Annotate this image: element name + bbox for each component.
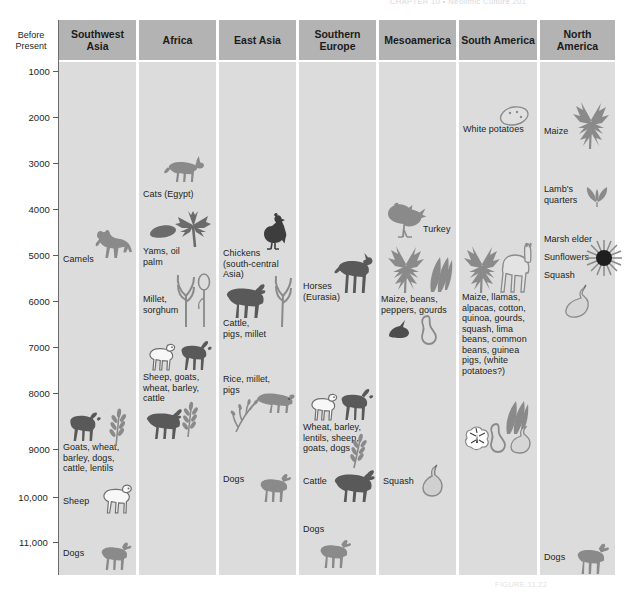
column-north-america[interactable]: North America Maize — [540, 20, 615, 575]
potato-icon — [497, 104, 531, 128]
turkey-icon — [385, 198, 431, 238]
beans-icon — [427, 254, 453, 294]
column-header: Africa — [139, 20, 216, 60]
camel-icon — [92, 226, 134, 262]
goat-icon — [177, 336, 213, 372]
llama-icon — [497, 242, 537, 294]
sheep-icon — [305, 390, 339, 422]
column-mesoamerica[interactable]: Mesoamerica Turkey Maize, beans, peppers… — [379, 20, 456, 575]
entry-label: Squash — [383, 476, 423, 487]
column-body: Horses (Eurasia) Wheat, barley, lentils,… — [299, 62, 376, 575]
y-axis-tick-label: 11,000 — [0, 537, 48, 548]
entry-label: Chickens (south-central Asia) — [223, 248, 279, 280]
column-east-asia[interactable]: East Asia Chickens (south-central Asia) … — [219, 20, 296, 575]
maize-icon — [385, 244, 427, 294]
cattle-icon — [329, 466, 379, 504]
entry-label: Cats (Egypt) — [143, 189, 209, 200]
goat-icon — [337, 384, 375, 422]
figure-caption: FIGURE 11.22 — [495, 580, 547, 589]
chicken-icon — [259, 212, 291, 250]
y-axis-title-line2: Present — [8, 41, 54, 52]
column-body: Camels Goats, wheat, barley, dogs, cattl… — [59, 62, 136, 575]
wheat-icon — [106, 407, 132, 447]
column-body: Cats (Egypt) Yams, oil palm — [139, 62, 216, 575]
column-header: North America — [540, 20, 615, 60]
entry-label: Dogs — [303, 524, 339, 535]
goat-icon — [65, 410, 101, 442]
y-axis-tick-label: 6000 — [2, 296, 50, 307]
y-axis-tick-label: 3000 — [2, 158, 50, 169]
column-body: Turkey Maize, beans, peppers, gourds — [379, 62, 456, 575]
millet-icon — [273, 274, 293, 328]
wheat-icon — [179, 400, 203, 438]
column-body: Maize — [540, 62, 615, 575]
column-header: East Asia — [219, 20, 296, 60]
y-axis-tick-label: 10,000 — [0, 492, 48, 503]
column-southwest-asia[interactable]: Southwest Asia Camels Goats, wheat, barl… — [59, 20, 136, 575]
cattle-icon — [221, 280, 273, 320]
dog-icon — [253, 470, 295, 504]
entry-label: Squash — [544, 270, 588, 281]
squash-icon — [419, 464, 449, 498]
chart-area: Southwest Asia Camels Goats, wheat, barl… — [59, 20, 615, 575]
column-header: Southwest Asia — [59, 20, 136, 60]
sunflower-icon — [584, 238, 624, 278]
gourd-icon — [487, 422, 509, 454]
column-africa[interactable]: Africa Cats (Egypt) Yams, oil palm — [139, 20, 216, 575]
column-body: Chickens (south-central Asia) Cattle, pi… — [219, 62, 296, 575]
entry-label: Yams, oil palm — [143, 246, 187, 267]
cat-icon — [161, 154, 205, 190]
y-axis-tick-label: 2000 — [2, 112, 50, 123]
column-southern-europe[interactable]: Southern Europe Horses (Eurasia) Wheat, … — [299, 20, 376, 575]
wheat-icon — [347, 432, 371, 470]
squash-icon — [562, 284, 596, 320]
millet-icon — [175, 272, 197, 328]
entry-label: Maize, llamas, alpacas, cotton, quinoa, … — [462, 292, 530, 376]
y-axis-tick-label: 4000 — [2, 204, 50, 215]
dog-icon — [313, 536, 357, 570]
column-header: Mesoamerica — [379, 20, 456, 60]
column-south-america[interactable]: South America White potatoes Maize, — [459, 20, 537, 575]
maize-icon — [570, 100, 612, 150]
entry-label: Cattle, pigs, millet — [223, 318, 271, 339]
column-body: White potatoes Maize, llamas, alpacas, c… — [459, 62, 537, 575]
entry-label: Lamb's quarters — [544, 184, 586, 205]
sorghum-icon — [195, 274, 213, 328]
gourd-icon — [417, 314, 441, 346]
rice-icon — [231, 398, 261, 434]
squash-icon — [507, 424, 535, 454]
entry-label: Maize, beans, peppers, gourds — [381, 294, 451, 315]
column-header: South America — [459, 20, 537, 60]
column-header: Southern Europe — [299, 20, 376, 60]
dog-icon — [570, 540, 614, 576]
y-axis-title-line1: Before — [8, 30, 54, 41]
pepper-icon — [387, 318, 413, 340]
y-axis-tick-label: 9000 — [2, 444, 50, 455]
sheep-icon — [96, 482, 134, 516]
y-axis-tick-label: 7000 — [2, 342, 50, 353]
horse-icon — [331, 252, 377, 296]
entry-label: Dogs — [63, 548, 99, 559]
y-axis-title: Before Present — [8, 30, 54, 51]
sheep-icon — [143, 340, 177, 372]
palm-icon — [174, 210, 212, 248]
y-axis-tick-label: 1000 — [2, 66, 50, 77]
running-head: CHAPTER 10 • Neolithic Culture 201 — [390, 0, 615, 6]
y-axis-tick-label: 5000 — [2, 250, 50, 261]
lambs-quarters-icon — [582, 182, 612, 208]
dog-icon — [95, 540, 135, 572]
y-axis-tick-label: 8000 — [2, 388, 50, 399]
entry-label: Sheep, goats, wheat, barley, cattle — [143, 372, 205, 404]
